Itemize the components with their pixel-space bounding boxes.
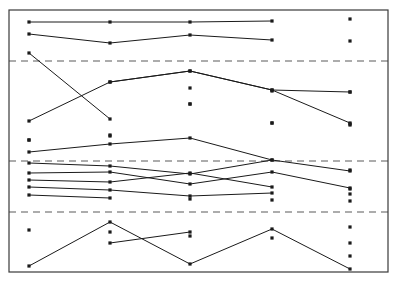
data-point	[270, 236, 273, 239]
data-point	[27, 51, 30, 54]
data-point	[27, 264, 30, 267]
data-point	[270, 121, 273, 124]
data-point	[188, 86, 191, 89]
data-point	[188, 234, 191, 237]
data-point	[188, 194, 191, 197]
data-point	[270, 88, 273, 91]
data-point	[348, 90, 351, 93]
data-point	[188, 102, 191, 105]
data-point	[108, 134, 111, 137]
data-point	[348, 39, 351, 42]
data-point	[108, 41, 111, 44]
data-point	[27, 193, 30, 196]
data-point	[348, 192, 351, 195]
data-point	[27, 138, 30, 141]
data-point	[270, 38, 273, 41]
data-point	[108, 220, 111, 223]
data-point	[188, 197, 191, 200]
data-point	[108, 164, 111, 167]
data-point	[188, 20, 191, 23]
data-point	[348, 267, 351, 270]
data-point	[270, 158, 273, 161]
data-point	[108, 180, 111, 183]
chart-background	[0, 0, 403, 289]
data-point	[108, 196, 111, 199]
data-point	[27, 32, 30, 35]
data-point	[108, 230, 111, 233]
data-point	[270, 198, 273, 201]
data-point	[108, 80, 111, 83]
data-point	[27, 185, 30, 188]
data-point	[188, 262, 191, 265]
data-point	[188, 182, 191, 185]
data-point	[27, 228, 30, 231]
data-point	[270, 191, 273, 194]
data-point	[108, 142, 111, 145]
data-point	[108, 20, 111, 23]
data-point	[188, 69, 191, 72]
data-point	[188, 136, 191, 139]
data-point	[27, 150, 30, 153]
data-point	[108, 188, 111, 191]
data-point	[348, 199, 351, 202]
data-point	[27, 119, 30, 122]
data-point	[27, 171, 30, 174]
data-point	[108, 117, 111, 120]
chart-figure	[0, 0, 403, 289]
data-point	[188, 230, 191, 233]
data-point	[348, 169, 351, 172]
data-point	[27, 161, 30, 164]
chart-canvas	[0, 0, 403, 289]
data-point	[27, 20, 30, 23]
data-point	[270, 185, 273, 188]
data-point	[188, 33, 191, 36]
data-point	[348, 17, 351, 20]
data-point	[108, 241, 111, 244]
data-point	[348, 241, 351, 244]
data-point	[27, 178, 30, 181]
data-point	[348, 122, 351, 125]
data-point	[188, 171, 191, 174]
data-point	[270, 227, 273, 230]
data-point	[108, 170, 111, 173]
data-point	[348, 187, 351, 190]
data-point	[348, 254, 351, 257]
data-point	[270, 19, 273, 22]
data-point	[270, 170, 273, 173]
data-point	[348, 225, 351, 228]
